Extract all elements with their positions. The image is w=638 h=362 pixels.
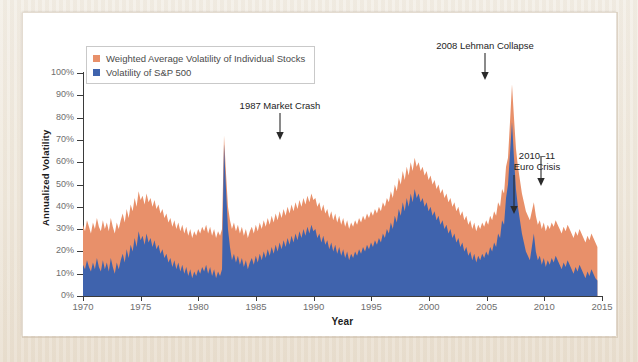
y-tick-label: 100% [34,68,74,77]
legend-item-individual-stocks: Weighted Average Volatility of Individua… [93,51,305,65]
legend-label-sp500: Volatility of S&P 500 [106,67,191,78]
y-tick-mark [77,73,83,74]
legend-item-sp500: Volatility of S&P 500 [93,65,305,79]
y-tick-label: 0% [34,291,74,300]
annotation-arrow-1987 [274,113,286,141]
y-tick-label: 20% [34,246,74,255]
y-tick-label: 90% [34,90,74,99]
y-tick-mark [77,140,83,141]
annotation-arrow-euro-left [508,175,520,215]
x-axis-title: Year [83,316,602,327]
x-tick-label: 2015 [580,301,624,312]
x-tick-label: 1985 [234,301,278,312]
x-tick-label: 1975 [119,301,163,312]
legend-label-individual-stocks: Weighted Average Volatility of Individua… [106,53,305,64]
y-tick-mark [77,251,83,252]
y-tick-mark [77,162,83,163]
x-tick-label: 1980 [176,301,220,312]
annotation-arrow-euro-right [535,157,547,187]
y-tick-mark [77,229,83,230]
y-tick-mark [77,207,83,208]
x-tick-label: 2005 [465,301,509,312]
x-axis-line [83,296,603,297]
legend-swatch-individual-stocks [93,55,100,62]
x-tick-label: 2010 [522,301,566,312]
chart-legend: Weighted Average Volatility of Individua… [86,46,315,84]
annotation-1987-market-crash: 1987 Market Crash [215,100,345,111]
annotation-2008-lehman-collapse: 2008 Lehman Collapse [405,40,565,51]
legend-swatch-sp500 [93,69,100,76]
figure-page: 0%10%20%30%40%50%60%70%80%90%100% 197019… [0,0,638,362]
y-tick-mark [77,95,83,96]
y-tick-mark [77,185,83,186]
x-tick-label: 1970 [61,301,105,312]
y-tick-mark [77,118,83,119]
y-axis-title-text: Annualized Volatility [40,130,51,226]
y-axis-title: Annualized Volatility [40,108,50,228]
annotation-2008-label: 2008 Lehman Collapse [436,40,534,51]
x-tick-label: 1995 [349,301,393,312]
annotation-arrow-2008 [479,53,491,81]
x-tick-label: 1990 [292,301,336,312]
y-tick-mark [77,274,83,275]
y-tick-label: 10% [34,269,74,278]
x-tick-label: 2000 [407,301,451,312]
annotation-1987-label: 1987 Market Crash [240,100,321,111]
